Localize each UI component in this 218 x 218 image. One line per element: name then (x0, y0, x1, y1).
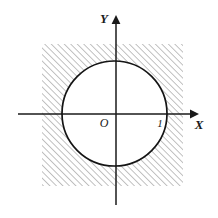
y-axis-label: Y (100, 11, 109, 26)
hatched-square-fill (42, 44, 183, 186)
x-axis-label: X (194, 117, 204, 132)
math-diagram-svg: Y X O 1 (0, 0, 218, 218)
origin-label: O (100, 116, 109, 130)
figure-canvas: Y X O 1 (0, 0, 218, 218)
y-axis-arrowhead-icon (112, 15, 121, 24)
x-tick-label-1: 1 (157, 117, 163, 129)
hatched-region (42, 44, 183, 186)
